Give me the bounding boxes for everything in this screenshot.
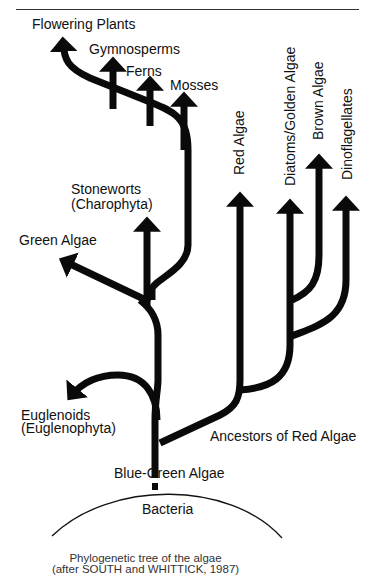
label-green-algae: Green Algae (19, 233, 97, 248)
label-gymnosperms: Gymnosperms (89, 42, 180, 57)
label-dinoflagellates: Dinoflagellates (340, 88, 355, 180)
branch-diatoms (240, 204, 290, 390)
label-diatoms: Diatoms/Golden Algae (283, 47, 298, 186)
branch-green-algae (64, 261, 150, 302)
label-bacteria: Bacteria (142, 502, 193, 517)
label-ancestors-red-algae: Ancestors of Red Algae (210, 429, 356, 444)
caption-line-2: (after SOUTH and WHITTICK, 1987) (0, 563, 335, 576)
label-stoneworts: Stoneworts (71, 182, 141, 197)
label-red-algae: Red Algae (232, 110, 247, 175)
label-euglenophyta: (Euglenophyta) (21, 421, 116, 436)
label-charophyta: (Charophyta) (71, 197, 153, 212)
label-flowering-plants: Flowering Plants (32, 17, 136, 32)
label-mosses: Mosses (170, 78, 218, 93)
branch-red-algae (160, 197, 240, 443)
label-ferns: Ferns (126, 64, 162, 79)
blue-green-block (152, 483, 158, 490)
label-blue-green-algae: Blue-Green Algae (114, 466, 225, 481)
label-brown-algae: Brown Algae (311, 61, 326, 140)
